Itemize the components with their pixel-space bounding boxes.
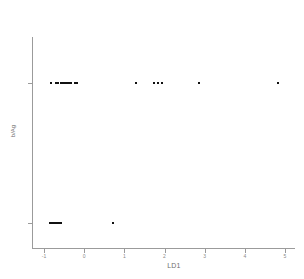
scatter-plot: -1012345 LD1 b/Ag: [0, 0, 304, 279]
x-tick-label: 3: [203, 253, 206, 259]
x-tick-label: 1: [123, 253, 126, 259]
x-tick-label: 5: [284, 253, 287, 259]
x-tick-label: 4: [243, 253, 246, 259]
x-axis-line: [32, 248, 295, 249]
x-tick-label: 2: [163, 253, 166, 259]
data-point: [112, 222, 114, 224]
data-point: [161, 82, 163, 84]
data-point: [50, 82, 52, 84]
x-tick-label: -1: [42, 253, 46, 259]
y-axis-label: b/Ag: [10, 125, 16, 137]
x-tick-label: 0: [83, 253, 86, 259]
y-tick-mark: [28, 83, 32, 84]
data-point: [60, 222, 62, 224]
data-point: [157, 82, 159, 84]
data-point: [76, 82, 78, 84]
y-tick-mark: [28, 223, 32, 224]
data-point: [57, 82, 59, 84]
data-point: [198, 82, 200, 84]
data-point: [70, 82, 72, 84]
data-point: [277, 82, 279, 84]
data-point: [135, 82, 137, 84]
x-axis-label: LD1: [167, 262, 180, 269]
data-point: [153, 82, 155, 84]
y-axis-line: [32, 37, 33, 249]
